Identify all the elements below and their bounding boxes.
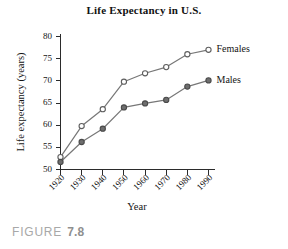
data-point-females-1970 bbox=[164, 64, 169, 69]
y-tick-label: 70 bbox=[43, 75, 53, 85]
figure-container: Life Expectancy in U.S. 50556065707580 1… bbox=[0, 0, 288, 249]
data-point-males-1950 bbox=[121, 105, 126, 110]
figure-caption-number: 7.8 bbox=[67, 225, 84, 239]
data-point-males-1980 bbox=[185, 84, 190, 89]
x-tick-label: 1950 bbox=[110, 172, 130, 192]
x-axis-title: Year bbox=[127, 201, 147, 212]
data-point-males-1960 bbox=[142, 101, 147, 106]
y-axis-ticks bbox=[56, 37, 61, 170]
y-tick-label: 55 bbox=[43, 141, 53, 151]
line-chart-plot: 50556065707580 1920193019401950196019701… bbox=[0, 0, 288, 249]
series-line-males bbox=[61, 80, 209, 162]
data-point-females-1960 bbox=[142, 71, 147, 76]
data-point-males-1970 bbox=[164, 97, 169, 102]
x-tick-label: 1980 bbox=[173, 172, 193, 192]
y-axis-title: Life expectancy (years) bbox=[15, 52, 27, 152]
figure-caption-label: FIGURE bbox=[12, 225, 62, 239]
series-label-females: Females bbox=[217, 43, 250, 54]
figure-caption: FIGURE7.8 bbox=[12, 225, 84, 239]
x-axis: 19201930194019501960197019801990 bbox=[47, 170, 215, 193]
y-tick-label: 80 bbox=[43, 31, 53, 41]
data-point-males-1990 bbox=[206, 78, 211, 83]
data-point-females-1990 bbox=[206, 47, 211, 52]
y-axis: 50556065707580 bbox=[43, 31, 61, 174]
y-axis-tick-labels: 50556065707580 bbox=[43, 31, 53, 174]
data-point-males-1940 bbox=[100, 126, 105, 131]
x-tick-label: 1970 bbox=[152, 172, 172, 192]
y-tick-label: 60 bbox=[43, 119, 53, 129]
data-point-females-1950 bbox=[121, 79, 126, 84]
data-point-females-1930 bbox=[79, 123, 84, 128]
series-polylines bbox=[61, 50, 209, 162]
series-label-males: Males bbox=[217, 74, 242, 85]
y-tick-label: 75 bbox=[43, 53, 53, 63]
x-tick-label: 1920 bbox=[47, 172, 67, 192]
x-tick-label: 1960 bbox=[131, 172, 151, 192]
data-point-females-1980 bbox=[185, 52, 190, 57]
y-tick-label: 50 bbox=[43, 164, 53, 174]
x-axis-tick-labels: 19201930194019501960197019801990 bbox=[47, 172, 215, 192]
x-tick-label: 1940 bbox=[89, 172, 109, 192]
data-point-males-1930 bbox=[79, 139, 84, 144]
y-tick-label: 65 bbox=[43, 97, 53, 107]
x-tick-label: 1990 bbox=[195, 172, 215, 192]
series-name-labels: FemalesMales bbox=[217, 43, 250, 85]
data-point-males-1920 bbox=[58, 159, 63, 164]
data-point-females-1940 bbox=[100, 107, 105, 112]
x-tick-label: 1930 bbox=[68, 172, 88, 192]
